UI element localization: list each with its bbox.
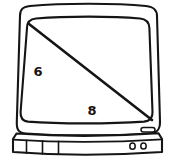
label-leg-vertical: 6 xyxy=(33,64,42,79)
tv-brand-badge xyxy=(141,128,155,133)
tv-diagram-figure: 6 8 xyxy=(0,0,172,165)
tv-drawing-svg: 6 8 xyxy=(0,0,172,165)
label-leg-horizontal: 8 xyxy=(87,103,96,118)
tv-base xyxy=(13,133,162,154)
